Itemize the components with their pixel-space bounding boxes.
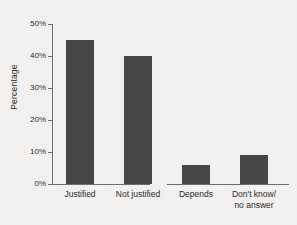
x-tick-label-depends: Depends (168, 189, 224, 200)
x-axis-scan-gap (150, 184, 167, 185)
x-tick-label-dont-know: Don't know/ no answer (218, 189, 290, 211)
x-axis-line (52, 184, 289, 185)
bar-depends (182, 165, 210, 184)
y-tick-label-50: 50% (16, 20, 46, 28)
x-tick-label-dont-know-line1: Don't know/ (232, 189, 276, 199)
y-tick-label-0: 0% (16, 180, 46, 188)
y-tick-label-40: 40% (16, 52, 46, 60)
bar-dont-know (240, 155, 268, 184)
bar-justified (66, 40, 94, 184)
bar-not-justified (124, 56, 152, 184)
y-tick-label-30: 30% (16, 84, 46, 92)
x-tick-label-not-justified: Not justified (103, 189, 173, 200)
x-tick-label-justified: Justified (50, 189, 110, 200)
x-tick-label-dont-know-line2: no answer (218, 200, 290, 211)
y-tick-label-10: 10% (16, 148, 46, 156)
bar-chart-figure: Percentage 50% 40% 30% 20% 10% 0% Justif… (0, 0, 297, 225)
y-axis-line (52, 24, 53, 185)
y-tick-label-20: 20% (16, 116, 46, 124)
